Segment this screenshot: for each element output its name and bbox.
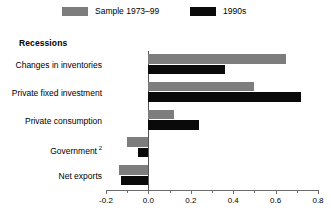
bar-group <box>106 107 318 135</box>
category-label: Private fixed investment <box>0 88 102 98</box>
legend-label-sample: Sample 1973–99 <box>95 7 159 16</box>
legend-item-nineties: 1990s <box>190 7 246 16</box>
x-tick <box>318 190 319 194</box>
x-tick-minor <box>127 190 128 193</box>
legend-swatch-sample <box>62 7 88 16</box>
category-label: Net exports <box>0 171 102 181</box>
x-tick-minor <box>297 190 298 193</box>
bar <box>148 92 301 102</box>
x-tick-minor <box>254 190 255 193</box>
bar <box>119 165 149 175</box>
category-label: Government 2 <box>0 143 102 156</box>
bar <box>148 120 199 130</box>
x-tick-label: 0.2 <box>176 196 206 205</box>
legend-item-sample: Sample 1973–99 <box>62 7 159 16</box>
bar <box>148 54 286 64</box>
panel-title: Recessions <box>19 38 67 48</box>
bar <box>148 82 254 92</box>
x-tick-minor <box>170 190 171 193</box>
bar <box>148 65 224 75</box>
x-tick-label: 0.0 <box>133 196 163 205</box>
x-tick <box>276 190 277 194</box>
x-tick-label: 0.8 <box>303 196 331 205</box>
bar <box>138 148 149 158</box>
category-axis: Changes in inventoriesPrivate fixed inve… <box>0 51 102 190</box>
category-label: Private consumption <box>0 116 102 126</box>
x-tick <box>233 190 234 194</box>
bar-group <box>106 134 318 162</box>
x-tick <box>106 190 107 194</box>
x-tick-label: 0.6 <box>261 196 291 205</box>
bar <box>127 137 148 147</box>
legend-swatch-nineties <box>190 7 216 16</box>
plot-area <box>106 51 318 190</box>
x-tick-minor <box>212 190 213 193</box>
bar-group <box>106 51 318 79</box>
x-tick <box>148 190 149 194</box>
x-tick-label: 0.4 <box>218 196 248 205</box>
bar-group <box>106 162 318 190</box>
x-tick-label: -0.2 <box>91 196 121 205</box>
bar <box>148 110 173 120</box>
legend-label-nineties: 1990s <box>223 7 246 16</box>
bar-group <box>106 79 318 107</box>
chart-legend: Sample 1973–99 1990s <box>0 4 331 20</box>
category-label: Changes in inventories <box>0 60 102 70</box>
x-tick <box>191 190 192 194</box>
footnote-marker: 2 <box>97 145 102 151</box>
bar <box>121 176 149 186</box>
